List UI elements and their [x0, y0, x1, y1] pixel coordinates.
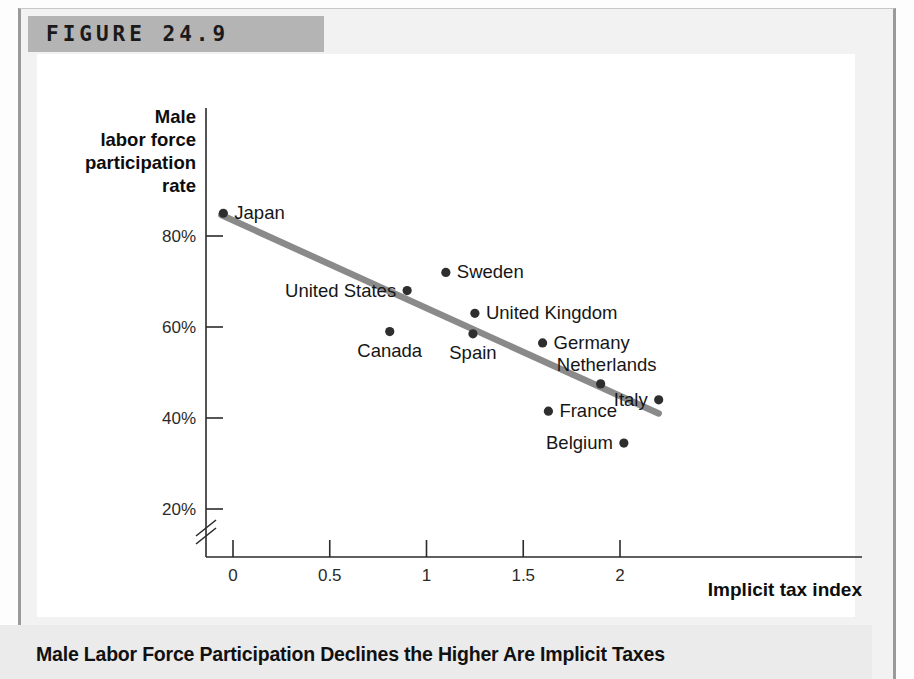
figure-number-label: FIGURE 24.9	[46, 22, 229, 46]
figure-caption: Male Labor Force Participation Declines …	[36, 643, 665, 666]
figure-page: FIGURE 24.9 Male Labor Force Participati…	[0, 0, 914, 679]
plot-card	[37, 54, 855, 617]
